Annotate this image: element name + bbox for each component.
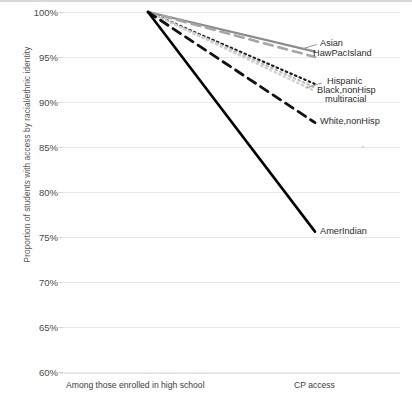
series-label-hawpacisland: HawPacIsland — [313, 48, 372, 58]
decorative-speck — [362, 146, 364, 148]
series-label-multiracial: multiracial — [325, 94, 366, 104]
series-lines — [0, 0, 412, 417]
series-label-white-nonhisp: White,nonHisp — [320, 116, 380, 126]
x-label-enrolled: Among those enrolled in high school — [66, 380, 205, 390]
chart-root: Proportion of students with access by ra… — [0, 0, 412, 417]
series-line-white-nonhisp — [148, 12, 315, 123]
series-label-amerindian: AmerIndian — [320, 226, 367, 236]
series-label-asian: Asian — [320, 38, 343, 48]
x-axis-labels: Among those enrolled in high school CP a… — [0, 378, 412, 400]
x-label-cp-access: CP access — [294, 380, 335, 390]
series-line-multiracial — [148, 12, 315, 91]
